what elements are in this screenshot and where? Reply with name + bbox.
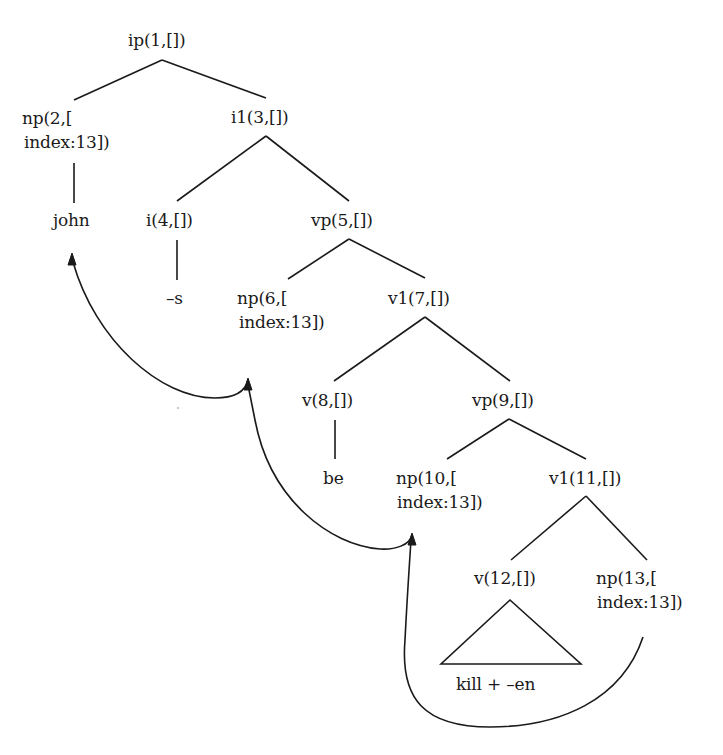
leaf-kill-en: kill + –en <box>456 674 535 695</box>
node-vp9: vp(9,[]) <box>472 390 534 411</box>
edge-v111-np13 <box>586 496 647 560</box>
arrow-hook-np6 <box>215 380 248 398</box>
edge-vp5-np6 <box>288 239 349 279</box>
arrowhead-np6-icon <box>244 378 252 390</box>
node-np10-line1: np(10,[ <box>396 468 457 489</box>
syntax-tree-diagram: ip(1,[]) np(2,[ index:13]) i1(3,[]) john… <box>0 0 723 755</box>
node-ip1: ip(1,[]) <box>128 30 185 51</box>
node-i4: i(4,[]) <box>146 210 193 231</box>
node-np6-line2: index:13]) <box>239 312 325 333</box>
node-i13: i1(3,[]) <box>231 107 288 128</box>
triangle-v12 <box>441 600 581 664</box>
arrow-hook-np10 <box>380 535 412 549</box>
node-np6-line1: np(6,[ <box>237 288 287 309</box>
node-v8: v(8,[]) <box>302 390 353 411</box>
node-np13-line2: index:13]) <box>597 592 683 613</box>
node-np10-line2: index:13]) <box>397 492 483 513</box>
edge-vp9-v111 <box>509 419 586 459</box>
edge-vp5-v17 <box>349 239 425 278</box>
edge-v17-vp9 <box>425 317 510 381</box>
node-v111: v1(11,[]) <box>549 468 621 489</box>
edge-i13-i4 <box>177 136 266 201</box>
leaf-john: john <box>53 210 90 231</box>
tree-edges <box>0 0 723 755</box>
arrowhead-np10-icon <box>408 533 416 545</box>
edge-i13-vp5 <box>266 136 349 201</box>
arrow-np6-to-john <box>73 262 215 398</box>
edge-vp9-np10 <box>447 419 509 459</box>
edge-v111-v12 <box>511 496 586 560</box>
node-vp5: vp(5,[]) <box>311 210 373 231</box>
leaf-s: –s <box>166 288 183 309</box>
node-np2-line1: np(2,[ <box>22 108 72 129</box>
node-v12: v(12,[]) <box>474 568 536 589</box>
speck <box>177 407 179 409</box>
edge-v17-v8 <box>334 317 425 381</box>
node-np13-line1: np(13,[ <box>596 568 657 589</box>
node-np2-line2: index:13]) <box>24 132 110 153</box>
edge-ip1-i13 <box>162 60 266 98</box>
leaf-be: be <box>323 468 344 489</box>
arrowhead-john-icon <box>68 253 76 265</box>
edge-ip1-np2 <box>74 60 162 100</box>
node-v17: v1(7,[]) <box>388 288 450 309</box>
